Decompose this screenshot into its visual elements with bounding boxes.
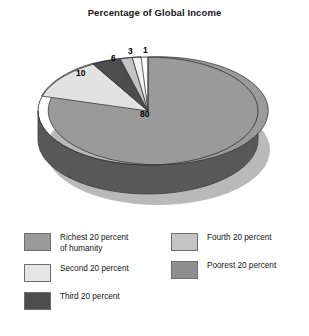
- legend-label-second: Second 20 percent: [60, 263, 129, 275]
- legend-label-fourth: Fourth 20 percent: [207, 232, 272, 244]
- legend-item-third: Third 20 percent: [24, 291, 169, 310]
- legend-label-third: Third 20 percent: [60, 291, 120, 303]
- legend-label-richest-line2: of humanity: [60, 244, 128, 255]
- legend-label-richest: Richest 20 percent of humanity: [60, 232, 128, 254]
- slice-value-third: 6: [111, 54, 116, 63]
- legend-label-second-line1: Second 20 percent: [60, 264, 129, 273]
- legend-swatch-third: [24, 292, 51, 310]
- pie-chart: 80 10 6 3 1: [0, 18, 309, 223]
- legend-swatch-second: [24, 264, 51, 282]
- slice-value-poorest: 1: [143, 46, 148, 55]
- chart-legend: Richest 20 percent of humanity Second 20…: [0, 232, 309, 332]
- legend-swatch-poorest: [171, 261, 198, 279]
- legend-item-poorest: Poorest 20 percent: [171, 260, 306, 279]
- legend-label-poorest: Poorest 20 percent: [207, 260, 276, 272]
- legend-swatch-richest: [24, 233, 51, 251]
- slice-value-richest: 80: [140, 110, 149, 119]
- legend-item-fourth: Fourth 20 percent: [171, 232, 306, 251]
- chart-title: Percentage of Global Income: [0, 7, 309, 18]
- legend-label-fourth-line1: Fourth 20 percent: [207, 233, 272, 242]
- legend-swatch-fourth: [171, 233, 198, 251]
- legend-label-poorest-line1: Poorest 20 percent: [207, 261, 276, 270]
- legend-label-richest-line1: Richest 20 percent: [60, 233, 128, 242]
- slice-value-fourth: 3: [128, 47, 133, 56]
- legend-column-left: Richest 20 percent of humanity Second 20…: [24, 232, 169, 319]
- legend-column-right: Fourth 20 percent Poorest 20 percent: [171, 232, 306, 288]
- legend-label-third-line1: Third 20 percent: [60, 292, 120, 301]
- pie-chart-svg: [0, 18, 309, 223]
- legend-item-richest: Richest 20 percent of humanity: [24, 232, 169, 254]
- slice-value-second: 10: [76, 69, 85, 78]
- legend-item-second: Second 20 percent: [24, 263, 169, 282]
